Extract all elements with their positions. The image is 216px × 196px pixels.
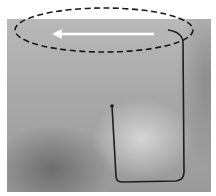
- annotation-overlay: [0, 0, 216, 196]
- dashed-ellipse: [15, 8, 193, 52]
- white-arrow-icon: [52, 29, 154, 39]
- wire-path: [112, 30, 184, 182]
- wire-end-dot: [110, 104, 114, 108]
